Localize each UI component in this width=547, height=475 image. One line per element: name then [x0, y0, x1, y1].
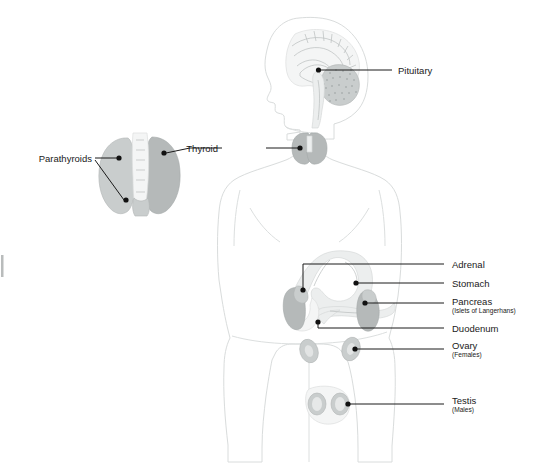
label-pituitary: Pituitary — [398, 65, 433, 76]
parathyroid-marker-dot-lower — [123, 197, 128, 202]
thyroid-marker-dot — [297, 145, 302, 150]
parathyroid-marker-dot-upper — [116, 155, 121, 160]
label-stomach: Stomach — [452, 278, 490, 289]
label-pancreas: Pancreas — [452, 296, 492, 307]
label-pancreas-sub: (Islets of Langerhans) — [452, 307, 516, 315]
parathyroid-marker-dot-right — [161, 150, 166, 155]
label-duodenum: Duodenum — [452, 323, 499, 334]
endocrine-diagram: Pituitary Thyroid Pa — [0, 0, 547, 475]
testes — [306, 386, 350, 424]
label-ovary-sub: (Females) — [452, 351, 482, 359]
left-edge-tick — [1, 255, 4, 277]
duodenum-marker-dot — [315, 319, 320, 324]
ovary-marker-dot — [352, 346, 357, 351]
pancreas-marker-dot — [362, 300, 367, 305]
stomach-marker-dot — [353, 280, 358, 285]
cerebellum — [320, 65, 359, 106]
diagram-canvas: Pituitary Thyroid Pa — [0, 0, 547, 475]
adrenal-marker-dot — [300, 287, 305, 292]
label-ovary: Ovary — [452, 340, 478, 351]
label-parathyroids: Parathyroids — [39, 153, 93, 164]
adrenal-and-kidney-right — [357, 290, 379, 331]
label-testis: Testis — [452, 395, 477, 406]
label-testis-sub: (Males) — [452, 406, 474, 414]
thyroid-gland — [292, 133, 327, 164]
thyroid-posterior-inset — [99, 133, 180, 216]
label-adrenal: Adrenal — [452, 259, 485, 270]
testis-marker-dot — [345, 401, 350, 406]
